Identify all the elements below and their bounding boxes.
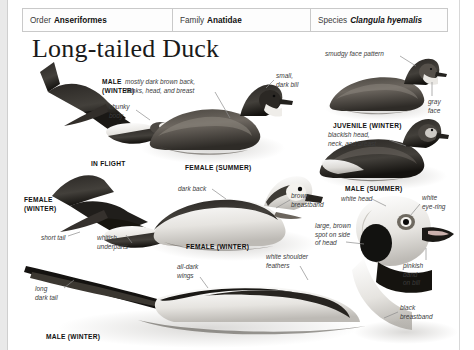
- caption-female-summer: FEMALE (SUMMER): [185, 164, 251, 173]
- caption-female-winter-swim: FEMALE (WINTER): [186, 243, 249, 252]
- annotation-small-dark-bill: small, dark bill: [276, 72, 298, 89]
- annotation-white-shoulder: white shoulder feathers: [266, 253, 308, 270]
- annotation-mostly-dark-brown: mostly dark brown back, flanks, head, an…: [125, 78, 195, 95]
- caption-male-summer: MALE (SUMMER): [345, 185, 402, 194]
- annotation-large-brown-spot: large, brown spot on side of head: [315, 222, 351, 248]
- caption-male-winter-swim: MALE (WINTER): [46, 333, 100, 342]
- field-guide-page: Order Anseriformes Family Anatidae Speci…: [7, 0, 460, 350]
- illustration-plate: [8, 0, 459, 350]
- annotation-all-dark-wings: all-dark wings: [177, 263, 198, 280]
- annotation-white-eye-ring: white eye-ring: [422, 194, 445, 211]
- annotation-brown-breastband: brown breastband: [291, 192, 324, 209]
- annotation-dark-back: dark back: [178, 185, 206, 194]
- page-outer-gutter: [459, 0, 474, 350]
- caption-female-winter-flight: FEMALE (WINTER): [24, 196, 56, 213]
- annotation-chunky-body: chunky body: [109, 103, 130, 120]
- caption-in-flight: IN FLIGHT: [91, 160, 125, 169]
- annotation-long-dark-tail: long dark tail: [35, 285, 58, 302]
- annotation-black-breastband: black breastband: [400, 304, 433, 321]
- annotation-gray-face: gray face: [428, 98, 441, 115]
- annotation-blackish-head: blackish head, neck, and breast: [328, 131, 376, 148]
- annotation-whitish-underparts: whitish underparts: [97, 234, 128, 251]
- annotation-smudgy-face: smudgy face pattern: [325, 50, 384, 59]
- caption-juvenile-winter: JUVENILE (WINTER): [333, 122, 402, 131]
- bird-illustrations: [8, 0, 459, 350]
- annotation-short-tail: short tail: [41, 234, 66, 243]
- annotation-white-head: white head: [341, 195, 372, 204]
- annotation-pinkish-band: pinkish band on bill: [403, 262, 423, 288]
- bird-female-summer-swimming: [141, 84, 293, 164]
